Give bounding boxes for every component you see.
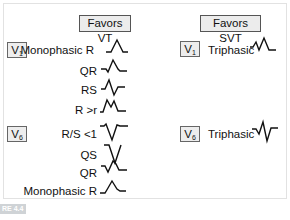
triphasic-v1-wave-icon [250, 36, 276, 56]
vt-v6-pattern-label: R/S <1 [62, 127, 97, 141]
lead-subscript: 6 [192, 134, 196, 141]
r-gt-r-wave-icon [100, 97, 126, 115]
lead-letter: V [11, 128, 19, 140]
vt-v1-pattern-label: QR [80, 64, 97, 78]
lead-letter: V [184, 43, 192, 55]
diagram-frame [3, 3, 287, 199]
vt-v6-pattern-label: QR [80, 166, 97, 180]
svt-v1-lead-box: V1 [180, 41, 200, 57]
lead-subscript: 1 [192, 49, 196, 56]
vt-v6-lead-box: V6 [7, 126, 27, 142]
favors-svt-header: Favors SVT [200, 15, 261, 32]
monophasic-r-wave-icon [106, 38, 128, 56]
vt-v6-pattern-label: Monophasic R [23, 184, 97, 198]
vt-v1-pattern-label: RS [81, 83, 97, 97]
rs-lt-1-wave-icon [100, 121, 128, 143]
lead-letter: V [11, 44, 19, 56]
vt-v6-pattern-label: QS [80, 148, 97, 162]
triphasic-v6-wave-icon [252, 120, 278, 144]
rs-wave-icon [101, 78, 125, 98]
qr-wave-icon [101, 158, 127, 180]
vt-v1-pattern-label: R >r [75, 103, 97, 117]
lead-letter: V [184, 128, 192, 140]
qr-wave-icon [101, 58, 127, 76]
svt-v6-lead-box: V6 [180, 126, 200, 142]
lead-subscript: 6 [19, 134, 23, 141]
favors-vt-header: Favors VT [79, 15, 131, 32]
figure-tag: RE 4.4 [0, 204, 26, 214]
vt-v1-pattern-label: Monophasic R [20, 43, 94, 57]
svt-v6-pattern-label: Triphasic [208, 127, 254, 141]
monophasic-r-wave-icon [100, 178, 126, 196]
svt-v1-pattern-label: Triphasic [208, 43, 254, 57]
